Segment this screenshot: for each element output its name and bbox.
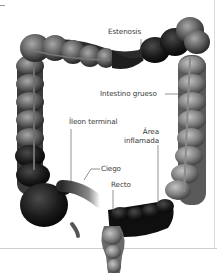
label-inflamada: inflamada [118,137,159,145]
descending-colon [165,55,206,205]
transverse-colon [20,28,190,69]
label-ileon-terminal: Íleon terminal [69,118,117,126]
label-estenosis: Estenosis [108,28,141,36]
rectum [101,226,124,273]
label-intestino-grueso: Intestino grueso [100,90,157,98]
colon-diagram: Estenosis Intestino grueso Íleon termina… [0,0,217,273]
label-recto: Recto [111,181,131,189]
ascending-colon [15,55,50,195]
colon-illustration [0,0,217,273]
label-ciego: Ciego [101,165,121,173]
label-area: Área [138,128,159,136]
